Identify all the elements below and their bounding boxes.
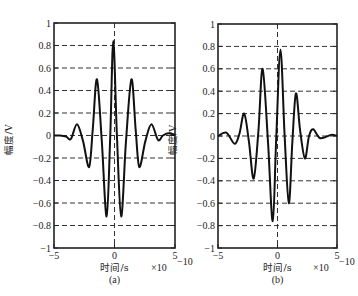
y-tick-label: −0.4 [197, 175, 215, 186]
y-tick-label: 0.4 [39, 85, 52, 96]
x-axis-label: 时间/s [263, 262, 291, 273]
y-tick-label: 0.2 [39, 108, 52, 119]
y-tick-label: 0.2 [203, 108, 216, 119]
panel-label: (b) [272, 274, 284, 286]
y-tick-label: −0.2 [197, 153, 215, 164]
y-tick-label: −0.4 [33, 175, 51, 186]
y-axis-label: 幅度/V [167, 125, 178, 155]
panel-label: (a) [109, 274, 120, 286]
x-tick-label: 0 [112, 250, 117, 261]
x-tick-label: −5 [213, 250, 224, 261]
panel-a: 10.80.60.40.20−0.2−0.4−0.6−0.8−1−505×10−… [3, 18, 193, 287]
y-tick-label: 0.8 [203, 41, 216, 52]
y-tick-label: 0 [46, 130, 51, 141]
y-tick-label: 0.6 [203, 63, 216, 74]
y-tick-label: 0 [210, 131, 215, 142]
y-tick-label: −0.6 [33, 198, 51, 209]
chart-figure: 10.80.60.40.20−0.2−0.4−0.6−0.8−1−505×10−… [0, 0, 358, 296]
y-tick-label: 0.4 [203, 86, 216, 97]
y-tick-label: −0.8 [33, 220, 51, 231]
x-exponent-power: −10 [339, 256, 355, 267]
y-tick-label: 1 [46, 18, 51, 29]
x-exponent-power: −10 [177, 256, 193, 267]
y-tick-label: 0.6 [39, 63, 52, 74]
y-tick-label: 1 [210, 19, 215, 30]
x-axis-label: 时间/s [100, 262, 128, 273]
y-tick-label: 0.8 [39, 40, 52, 51]
y-tick-label: −0.2 [33, 153, 51, 164]
y-tick-label: −0.8 [197, 220, 215, 231]
y-axis-label: 幅度/V [3, 124, 14, 154]
x-tick-label: 0 [275, 250, 280, 261]
y-tick-label: −0.6 [197, 198, 215, 209]
x-exponent-label: ×10 [151, 262, 167, 273]
x-tick-label: −5 [49, 250, 60, 261]
panel-b: 10.80.60.40.20−0.2−0.4−0.6−0.8−1−505×10−… [167, 19, 355, 287]
x-exponent-label: ×10 [313, 262, 329, 273]
